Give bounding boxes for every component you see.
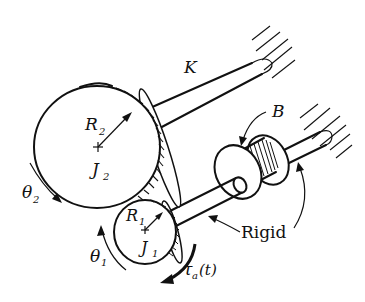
svg-text:2: 2 <box>98 126 105 137</box>
svg-text:1: 1 <box>101 257 107 268</box>
svg-text:θ: θ <box>90 246 100 266</box>
svg-text:θ: θ <box>22 182 32 202</box>
gear-train-diagram: K B R 2 J 2 θ 2 R 1 J 1 θ 1 Rigid τ a (t… <box>0 0 365 302</box>
theta1-label: θ 1 <box>90 246 107 268</box>
fixed-wall-top <box>252 26 295 78</box>
svg-text:2: 2 <box>32 194 39 205</box>
svg-text:1: 1 <box>152 248 158 259</box>
damper-body <box>205 128 297 207</box>
theta2-label: θ 2 <box>22 182 39 205</box>
rigid-label: Rigid <box>241 222 287 242</box>
torque-label: τ a (t) <box>183 259 217 281</box>
damper-shaft <box>284 131 332 163</box>
spring-label: K <box>183 57 198 77</box>
svg-text:a: a <box>192 270 198 281</box>
damper-label: B <box>271 101 285 121</box>
rigid-shaft <box>170 175 249 226</box>
svg-text:(t): (t) <box>199 261 217 279</box>
svg-text:2: 2 <box>102 171 109 182</box>
spring-shaft <box>150 59 272 129</box>
svg-text:R: R <box>84 114 98 134</box>
svg-text:1: 1 <box>139 216 145 227</box>
svg-text:R: R <box>125 206 138 225</box>
